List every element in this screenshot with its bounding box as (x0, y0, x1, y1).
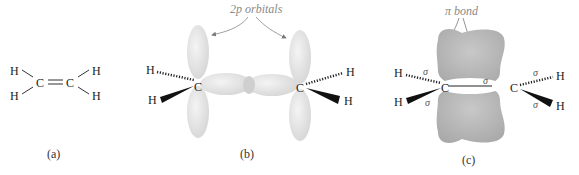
atom-h: H (10, 64, 19, 78)
solid-wedge-bond (306, 88, 340, 104)
hashed-wedge-bond (157, 72, 194, 80)
ethylene-bonding-diagram: H H C C H H (a) 2p orbitals H (0, 0, 579, 175)
panel-b-2p-orbitals: 2p orbitals H C H C H H (b) (146, 2, 355, 161)
panel-a-label: (a) (47, 147, 60, 161)
atom-c: C (194, 80, 202, 94)
annotation-2p-orbitals: 2p orbitals (230, 2, 283, 16)
atom-c: C (296, 81, 304, 95)
solid-wedge-bond (406, 88, 441, 104)
atom-h: H (148, 93, 157, 107)
sigma-label: σ (423, 66, 429, 77)
sigma-label: σ (533, 99, 539, 110)
hashed-wedge-bond (520, 77, 553, 85)
bond-lines (22, 70, 89, 94)
sigma-overlap (243, 76, 255, 94)
atom-h: H (556, 99, 565, 113)
panel-c-pi-bond: π bond σ H σ C H σ C σ H σ H (c) (394, 4, 565, 167)
panel-c-label: (c) (462, 153, 475, 167)
atom-h: H (92, 89, 101, 103)
pi-cloud-upper (437, 29, 505, 85)
atom-h: H (344, 94, 353, 108)
atom-h: H (10, 89, 19, 103)
arrow-to-right-orbital (256, 17, 286, 38)
p-orbital-lobe (289, 89, 311, 141)
atom-h: H (346, 65, 355, 79)
atom-c: C (66, 76, 74, 90)
atom-h: H (394, 95, 403, 109)
atom-c: C (36, 76, 44, 90)
arrow-to-left-orbital (212, 17, 248, 35)
panel-a-lewis-structure: H H C C H H (a) (10, 64, 101, 161)
sigma-label: σ (425, 97, 431, 108)
p-orbital-lobe (289, 30, 311, 84)
sigma-label: σ (533, 67, 539, 78)
atom-h: H (556, 69, 565, 83)
atom-h: H (146, 63, 155, 77)
atom-h: H (92, 64, 101, 78)
hashed-wedge-bond (306, 73, 343, 84)
p-orbital-lobe (187, 25, 209, 79)
atom-c: C (441, 81, 449, 95)
panel-b-label: (b) (240, 147, 254, 161)
atom-h: H (394, 66, 403, 80)
atom-c: C (510, 81, 518, 95)
annotation-pi-bond: π bond (445, 4, 479, 18)
